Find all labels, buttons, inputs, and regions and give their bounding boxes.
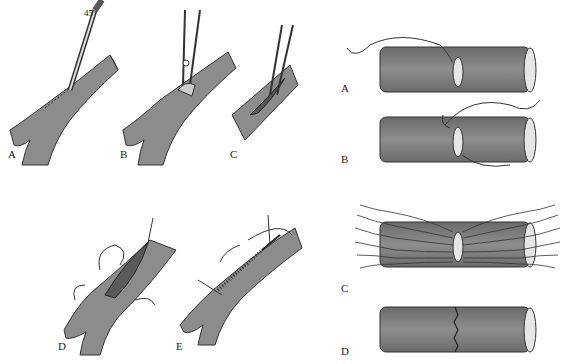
vessel-panel-c: [232, 25, 298, 140]
vessel-panel-a: [10, 0, 118, 165]
figure-canvas: 45°: [0, 0, 563, 364]
label-left-d: D: [58, 340, 66, 352]
angle-annotation: 45°: [84, 8, 97, 18]
tube-panel-c: [355, 205, 560, 268]
vessel-panel-b: [123, 10, 236, 165]
label-right-c: C: [341, 282, 348, 294]
tube-panel-b: [380, 100, 540, 166]
label-left-a: A: [8, 148, 16, 160]
label-right-b: B: [341, 153, 348, 165]
vessel-panel-d: [64, 218, 176, 355]
label-left-c: C: [230, 148, 237, 160]
tube-panel-d: [380, 307, 536, 352]
label-left-e: E: [176, 340, 183, 352]
label-right-a: A: [341, 82, 349, 94]
label-right-d: D: [341, 345, 349, 357]
label-left-b: B: [120, 148, 127, 160]
vessel-panel-e: [180, 215, 302, 345]
tube-panel-a: [347, 38, 536, 93]
